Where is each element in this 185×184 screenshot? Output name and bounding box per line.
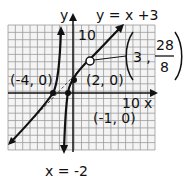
- y-axis-arrow-icon: [69, 13, 77, 21]
- point-2-label: (2, 0): [86, 73, 124, 87]
- hole-numerator: 28: [156, 38, 174, 52]
- point-2-0: [71, 77, 77, 83]
- oblique-asymptote-label: y = x +3: [96, 8, 158, 22]
- hole-denominator: 8: [160, 60, 169, 74]
- point-neg1-label: (-1, 0): [93, 111, 136, 125]
- point-neg4-label: (-4, 0): [10, 73, 53, 87]
- y-ten-label: 10: [78, 28, 96, 42]
- x-ten-label: 10: [122, 96, 140, 110]
- x-axis-label: x: [144, 96, 152, 110]
- hole-point: [86, 57, 94, 65]
- vertical-asymptote-label: x = -2: [45, 164, 88, 178]
- point-neg1-0: [65, 90, 71, 96]
- point-neg4-0: [50, 90, 56, 96]
- y-axis-label: y: [60, 8, 68, 22]
- hole-x-label: 3 ,: [133, 50, 151, 64]
- hole-right-paren: [175, 32, 182, 80]
